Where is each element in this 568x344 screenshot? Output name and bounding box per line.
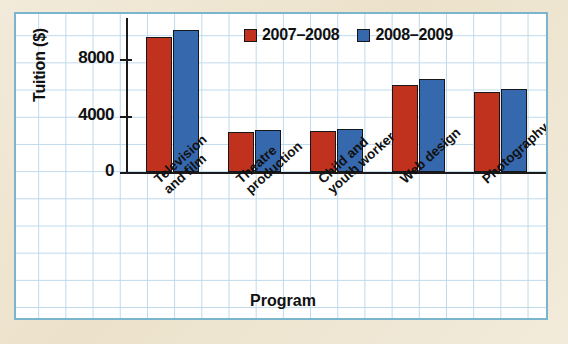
- x-axis-labels: Television and filmTheatre productionChi…: [128, 176, 546, 296]
- y-tick-label: 0: [105, 161, 114, 181]
- chart-legend: 2007–2008 2008–2009: [244, 26, 453, 44]
- y-tick-label: 4000: [78, 105, 114, 125]
- y-tick: 0: [120, 172, 132, 174]
- chart-panel: Tuition ($) 040008000 Television and fil…: [14, 12, 548, 320]
- plot-area: Tuition ($) 040008000 Television and fil…: [16, 14, 548, 320]
- legend-swatch-icon: [244, 29, 257, 42]
- chart-page: Tuition ($) 040008000 Television and fil…: [0, 0, 568, 344]
- legend-item-2008-2009: 2008–2009: [357, 26, 452, 44]
- y-tick-mark: [120, 172, 132, 174]
- y-tick-label: 8000: [78, 48, 114, 68]
- x-axis-title: Program: [16, 292, 548, 310]
- legend-label: 2007–2008: [262, 26, 339, 44]
- legend-swatch-icon: [357, 29, 370, 42]
- legend-item-2007-2008: 2007–2008: [244, 26, 339, 44]
- bar: [146, 37, 172, 172]
- legend-label: 2008–2009: [375, 26, 452, 44]
- y-axis-title: Tuition ($): [31, 12, 49, 125]
